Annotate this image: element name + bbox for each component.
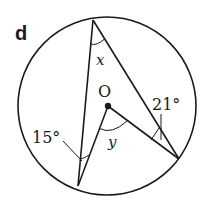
leader-line-15 [63, 141, 82, 161]
figure-label: d [15, 22, 27, 44]
angle-arc-21 [151, 128, 159, 140]
radius-to-bottom-left [78, 106, 108, 186]
angle-arc-x [90, 39, 104, 44]
angle-label-y: y [107, 133, 117, 151]
circle-geometry-figure: d x O y 15° 21° [0, 0, 206, 206]
diagram-canvas: d x O y 15° 21° [0, 0, 206, 206]
center-label-o: O [98, 82, 111, 101]
angle-label-21: 21° [152, 95, 180, 114]
angle-label-x: x [96, 51, 105, 69]
center-point [105, 103, 111, 109]
angle-label-15: 15° [32, 128, 60, 147]
angle-arc-y [100, 121, 128, 131]
chord-top-to-bottom-left [78, 20, 93, 186]
